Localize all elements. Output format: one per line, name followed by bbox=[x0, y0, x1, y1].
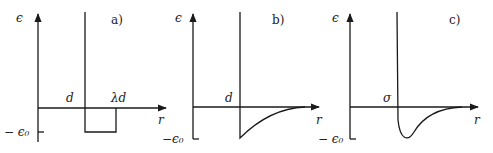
panel-c: ϵ c) σ r − ϵ₀ bbox=[318, 11, 481, 146]
potential-diagrams: ϵ a) d λd r − ϵ₀ ϵ b) d r −ϵ₀ ϵ c) σ r −… bbox=[0, 0, 493, 153]
y-label-c: ϵ bbox=[332, 11, 339, 25]
panel-tag-a: a) bbox=[111, 13, 123, 27]
y-label-b: ϵ bbox=[175, 11, 182, 25]
x-label-b: r bbox=[316, 113, 323, 127]
mark-sigma: σ bbox=[383, 91, 392, 105]
attractive-tail-curve bbox=[240, 12, 305, 138]
panel-a: ϵ a) d λd r − ϵ₀ bbox=[4, 11, 166, 142]
min-label-c: − ϵ₀ bbox=[318, 132, 344, 146]
mark-lambda-d: λd bbox=[110, 91, 127, 105]
mark-d-a: d bbox=[66, 91, 74, 105]
square-well-curve bbox=[85, 12, 116, 132]
panel-b: ϵ b) d r −ϵ₀ bbox=[162, 11, 323, 146]
min-label-b: −ϵ₀ bbox=[162, 132, 184, 146]
mark-d-b: d bbox=[225, 91, 233, 105]
lennard-jones-curve bbox=[397, 12, 462, 138]
y-label-a: ϵ bbox=[16, 11, 23, 25]
panel-tag-b: b) bbox=[272, 13, 284, 27]
x-label-a: r bbox=[158, 113, 165, 127]
panel-tag-c: c) bbox=[449, 13, 460, 27]
min-label-a: − ϵ₀ bbox=[4, 125, 30, 139]
x-label-c: r bbox=[474, 113, 481, 127]
